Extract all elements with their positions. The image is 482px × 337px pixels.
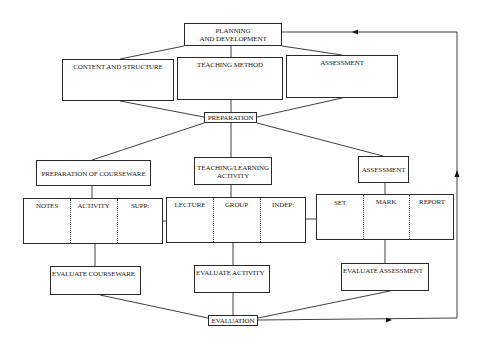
evaluate-activity-label: EVALUATE ACTIVITY: [196, 269, 264, 277]
report-label: REPORT: [409, 198, 455, 206]
evaluate-assessment-box: EVALUATE ASSESSMENT: [341, 263, 429, 291]
teaching-learning-label-line1: TEACHING/LEARNING: [195, 164, 271, 172]
activity-label: ACTIVITY: [70, 202, 117, 210]
set-label: SET: [317, 199, 363, 207]
mark-label: MARK: [363, 198, 409, 206]
content-structure-box: CONTENT AND STRUCTURE: [62, 59, 174, 101]
planning-label-line1: PLANNING: [185, 27, 281, 35]
evaluate-courseware-label: EVALUATE COURSEWARE: [52, 270, 135, 278]
assessment-plan-label: ASSESSMENT: [287, 59, 397, 67]
notes-label: NOTES: [24, 202, 70, 210]
evaluate-courseware-box: EVALUATE COURSEWARE: [50, 266, 141, 295]
teaching-method-label: TEACHING METHOD: [178, 61, 282, 69]
assessment-components-box: SET MARK REPORT: [316, 194, 454, 240]
courseware-components-box: NOTES ACTIVITY SUPP:: [23, 198, 163, 244]
evaluation-label: EVALUATION: [209, 317, 257, 325]
assessment-label: ASSESSMENT: [359, 166, 408, 174]
lecture-label: LECTURE: [167, 201, 213, 209]
activity-components-box: LECTURE GROUP INDEP:: [166, 197, 306, 243]
content-structure-label: CONTENT AND STRUCTURE: [63, 63, 173, 71]
preparation-label: PREPARATION: [205, 114, 256, 122]
preparation-courseware-box: PREPARATION OF COURSEWARE: [36, 160, 151, 186]
assessment-plan-box: ASSESSMENT: [286, 55, 398, 98]
evaluate-assessment-label: EVALUATE ASSESSMENT: [343, 267, 423, 275]
group-label: GROUP: [213, 201, 260, 209]
evaluation-box: EVALUATION: [208, 315, 258, 326]
supp-label: SUPP:: [117, 202, 163, 210]
planning-label-line2: AND DEVELOPMENT: [185, 35, 281, 43]
preparation-box: PREPARATION: [204, 112, 257, 123]
flow-diagram: PLANNING AND DEVELOPMENT CONTENT AND STR…: [0, 0, 482, 337]
teaching-method-box: TEACHING METHOD: [177, 57, 283, 100]
evaluate-activity-box: EVALUATE ACTIVITY: [194, 265, 270, 293]
teaching-learning-label-line2: ACTIVITY: [195, 172, 271, 180]
teaching-learning-box: TEACHING/LEARNING ACTIVITY: [194, 157, 272, 185]
planning-development-box: PLANNING AND DEVELOPMENT: [184, 23, 282, 46]
preparation-courseware-label: PREPARATION OF COURSEWARE: [37, 170, 150, 178]
assessment-box: ASSESSMENT: [358, 156, 409, 183]
indep-label: INDEP:: [260, 201, 306, 209]
